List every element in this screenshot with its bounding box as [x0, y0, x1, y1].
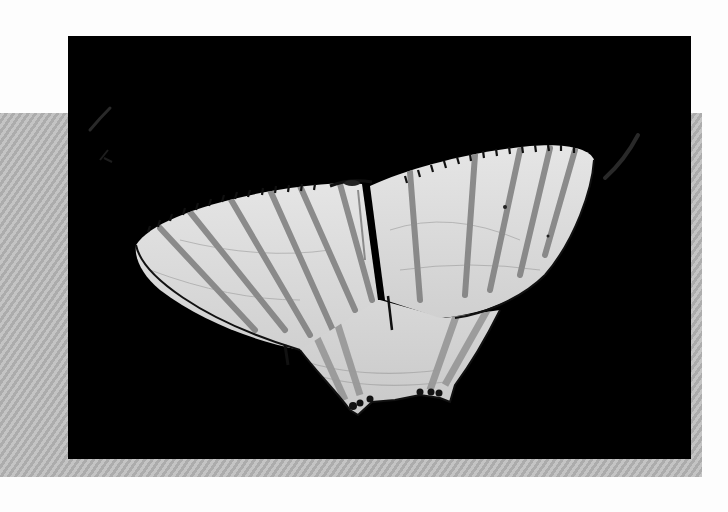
- debris-speck: [100, 150, 112, 162]
- moth-photo: [68, 36, 691, 459]
- moth-illustration: [68, 36, 691, 459]
- debris-speck: [90, 108, 110, 130]
- debris-speck: [605, 135, 638, 178]
- right-forewing: [365, 140, 600, 325]
- page-canvas: [0, 0, 728, 512]
